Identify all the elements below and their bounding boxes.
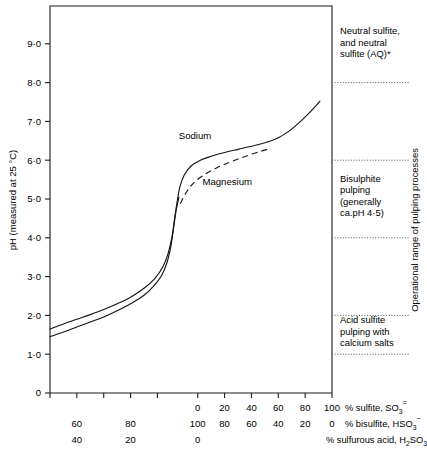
curve-label-sodium: Sodium <box>179 130 212 141</box>
x-tick-label: 0 <box>329 418 334 429</box>
acid-sulfite-band-line: Acid sulfite <box>340 314 385 325</box>
x-axis-row-title: % sulfurous acid, H2SO3 <box>326 435 427 447</box>
x-tick-label: 80 <box>219 418 230 429</box>
y-tick-label: 7·0 <box>27 116 41 127</box>
y-tick-label: 6·0 <box>27 155 41 166</box>
neutral-sulfite-band-line: sulfite (AQ)* <box>340 48 391 59</box>
x-tick-label: 40 <box>273 418 284 429</box>
operational-range-side-label: Operational range of pulping processes <box>409 148 420 312</box>
chart-canvas: 01·02·03·04·05·06·07·08·09·0 pH (measure… <box>0 0 427 453</box>
y-tick-label: 9·0 <box>27 38 41 49</box>
bisulphite-band-line: pulping <box>340 184 370 195</box>
x-tick-label: 40 <box>72 434 83 445</box>
x-tick-label: 0 <box>195 434 200 445</box>
x-tick-label: 100 <box>324 402 340 413</box>
acid-sulfite-band-line: pulping with <box>340 326 390 337</box>
ph-sulfite-chart-figure: 01·02·03·04·05·06·07·08·09·0 pH (measure… <box>0 0 427 453</box>
bisulphite-band-line: ca.pH 4·5) <box>340 207 384 218</box>
y-tick-label: 3·0 <box>27 271 41 282</box>
y-tick-label: 8·0 <box>27 77 41 88</box>
bisulphite-band-line: (generally <box>340 196 381 207</box>
y-tick-label: 5·0 <box>27 193 41 204</box>
bisulphite-band-line: Bisulphite <box>340 173 381 184</box>
y-tick-label: 0 <box>36 387 41 398</box>
y-tick-label: 2·0 <box>27 310 41 321</box>
y-axis-title: pH (measured at 25 °C) <box>7 150 18 250</box>
x-tick-label: 60 <box>246 418 257 429</box>
x-tick-label: 60 <box>72 418 83 429</box>
y-tick-label: 1·0 <box>27 349 41 360</box>
x-tick-label: 20 <box>125 434 136 445</box>
x-tick-label: 80 <box>300 402 311 413</box>
acid-sulfite-band-line: calcium salts <box>340 337 394 348</box>
chart-background <box>0 0 427 453</box>
y-tick-label: 4·0 <box>27 232 41 243</box>
x-tick-label: 40 <box>246 402 257 413</box>
x-tick-label: 100 <box>190 418 206 429</box>
x-tick-label: 60 <box>273 402 284 413</box>
x-tick-label: 80 <box>125 418 136 429</box>
neutral-sulfite-band-line: Neutral sulfite, <box>340 25 400 36</box>
x-tick-label: 20 <box>300 418 311 429</box>
x-tick-label: 0 <box>195 402 200 413</box>
curve-label-magnesium: Magnesium <box>202 176 252 187</box>
x-tick-label: 20 <box>219 402 230 413</box>
neutral-sulfite-band-line: and neutral <box>340 37 387 48</box>
